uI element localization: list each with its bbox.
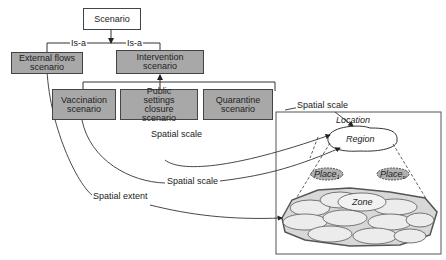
vaccination-scale-label: Spatial scale [166, 176, 219, 186]
location-label: Location [336, 115, 370, 125]
is-a-left-label: Is-a [70, 38, 87, 48]
vaccination-label: Vaccination scenario [59, 96, 109, 114]
place-1-name: Place [314, 169, 337, 179]
scenario-label: Scenario [94, 15, 130, 24]
intervention-label: Intervention scenario [125, 53, 195, 71]
vaccination-box: Vaccination scenario [52, 89, 116, 120]
place-1-sub: 1 [337, 174, 340, 180]
quarantine-box: Quarantine scenario [203, 89, 273, 120]
scenario-box: Scenario [83, 8, 141, 30]
external-flows-box: External flows scenario [11, 52, 83, 74]
place-n-name: Place [380, 169, 403, 179]
external-flows-label: External flows scenario [16, 54, 78, 72]
region-label: Region [346, 134, 375, 144]
zone-label: Zone [352, 197, 373, 207]
vaccination-scale-curve [82, 120, 340, 183]
place-n-label: Placen [380, 169, 406, 182]
quarantine-label: Quarantine scenario [212, 96, 264, 114]
external-extent-label: Spatial extent [92, 191, 149, 201]
public-settings-box: Public settings closure scenario [120, 89, 198, 120]
place-1-label: Place1 [314, 169, 340, 182]
diagram-canvas [0, 0, 446, 260]
intervention-box: Intervention scenario [116, 50, 204, 74]
place-n-sub: n [403, 174, 406, 180]
public-scale-label: Spatial scale [150, 129, 203, 139]
quarantine-scale-label: Spatial scale [296, 100, 349, 110]
is-a-right-label: Is-a [126, 38, 143, 48]
public-settings-label: Public settings closure scenario [131, 87, 187, 123]
